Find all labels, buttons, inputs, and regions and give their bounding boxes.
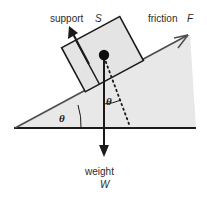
physics-diagram: support S friction F weight W θ θ	[0, 0, 207, 198]
inclined-plane-figure: support S friction F weight W θ θ	[0, 0, 207, 198]
support-symbol-label: S	[95, 13, 102, 24]
incline-angle-label: θ	[59, 112, 65, 124]
weight-angle-label: θ	[106, 95, 112, 107]
support-label: support	[50, 13, 84, 24]
support-arrowhead	[68, 26, 78, 39]
friction-symbol-label: F	[187, 13, 194, 24]
weight-symbol-label: W	[100, 179, 111, 190]
weight-label: weight	[84, 166, 114, 177]
friction-label: friction	[148, 13, 177, 24]
weight-arrowhead	[99, 145, 109, 157]
centre-of-mass-dot	[99, 50, 109, 60]
